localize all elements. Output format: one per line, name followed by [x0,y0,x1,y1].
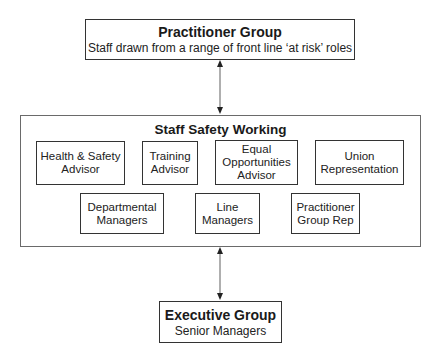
staff-safety-working-title: Staff Safety Working [21,122,420,138]
member-equal-opportunities-advisor: Equal Opportunities Advisor [215,140,298,185]
practitioner-group-box: Practitioner Group Staff drawn from a ra… [85,19,355,60]
member-label: Line Managers [202,201,253,227]
executive-group-box: Executive Group Senior Managers [159,301,282,343]
member-health-safety-advisor: Health & Safety Advisor [36,141,125,185]
member-label: Union Representation [321,150,399,176]
member-training-advisor: Training Advisor [142,141,198,185]
member-label: Practitioner Group Rep [296,201,354,227]
member-departmental-managers: Departmental Managers [80,193,164,234]
member-label: Departmental Managers [87,201,156,227]
practitioner-group-subtitle: Staff drawn from a range of front line ‘… [88,41,352,55]
member-label: Training Advisor [149,150,190,176]
member-label: Equal Opportunities Advisor [222,143,290,182]
bidirectional-arrow-icon [217,247,223,300]
practitioner-group-title: Practitioner Group [158,24,282,41]
member-practitioner-group-rep: Practitioner Group Rep [291,193,360,234]
member-label: Health & Safety Advisor [41,150,121,176]
member-line-managers: Line Managers [195,193,260,234]
member-union-representation: Union Representation [315,140,404,185]
bidirectional-arrow-icon [217,60,223,114]
executive-group-title: Executive Group [165,307,276,324]
executive-group-subtitle: Senior Managers [175,324,266,338]
